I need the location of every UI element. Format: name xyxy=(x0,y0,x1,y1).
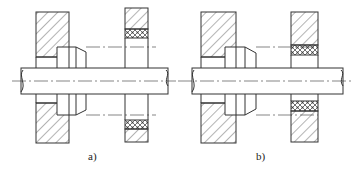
panel-a xyxy=(12,8,176,143)
panel-b xyxy=(178,12,352,143)
panel-b-label: b) xyxy=(256,150,265,162)
technical-drawing-figure: a) b) xyxy=(0,0,352,175)
panel-a-label: a) xyxy=(88,150,97,162)
drawing-canvas xyxy=(0,0,352,175)
